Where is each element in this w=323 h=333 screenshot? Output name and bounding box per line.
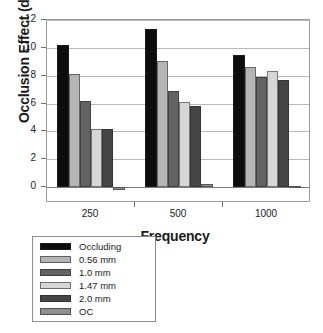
y-tick-label: 10 [0,42,36,52]
y-tick-label: 4 [0,125,36,135]
bar-chart-figure: Occlusion Effect (dB) 024681012 25050010… [0,0,323,333]
legend-swatch [40,295,71,302]
y-tick-label: 8 [0,70,36,80]
legend-swatch [40,282,71,289]
legend-item: 1.47 mm [37,279,151,292]
bar [179,102,190,187]
legend-label: 0.56 mm [79,255,116,265]
x-tick-label: 500 [148,208,208,219]
bar [190,106,201,187]
bar [157,61,168,187]
plot-area [46,19,310,202]
legend-label: OC [79,307,93,317]
legend-swatch [40,243,71,250]
x-tick-label: 1000 [236,208,296,219]
bar [145,29,156,187]
x-tick-label: 250 [60,208,120,219]
legend-item: 1.0 mm [37,266,151,279]
legend-swatch [40,308,71,315]
legend-label: 2.0 mm [79,294,111,304]
bar [256,77,267,187]
bar [168,91,179,187]
legend-swatch [40,256,71,263]
y-tick-label: 2 [0,153,36,163]
legend: Occluding0.56 mm1.0 mm1.47 mm2.0 mmOC [32,236,156,322]
bar [245,67,256,187]
legend-label: 1.47 mm [79,281,116,291]
bar [201,184,212,187]
bar [57,45,68,187]
bar [80,101,91,187]
x-tick-mark [222,202,223,207]
y-tick-label: 12 [0,14,36,24]
legend-label: 1.0 mm [79,268,111,278]
bar [278,80,289,187]
legend-label: Occluding [79,242,121,252]
bar [102,129,113,187]
legend-item: 0.56 mm [37,253,151,266]
gridline [47,20,309,21]
zero-line [47,187,309,188]
bar [233,55,244,187]
bar [69,74,80,187]
legend-item: 2.0 mm [37,292,151,305]
bar [91,129,102,187]
legend-item: Occluding [37,240,151,253]
x-tick-mark [134,202,135,207]
legend-item: OC [37,305,151,318]
bar [267,71,278,187]
y-tick-label: 6 [0,98,36,108]
gridline [47,48,309,49]
legend-swatch [40,269,71,276]
bar [113,187,124,190]
y-tick-label: 0 [0,181,36,191]
bar [289,186,300,188]
